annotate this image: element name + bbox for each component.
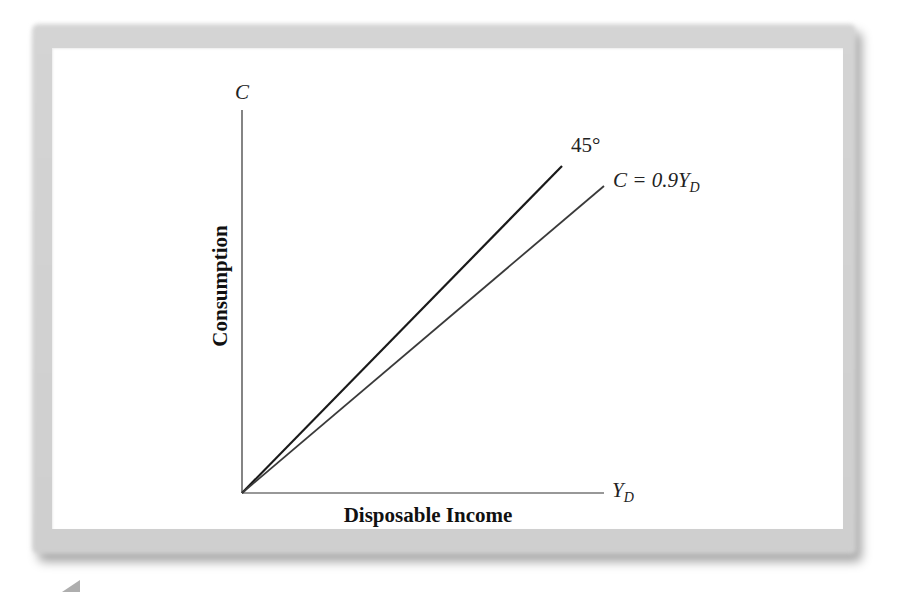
line-45-label: 45°: [571, 133, 600, 158]
consumption-line-label-subscript: D: [690, 180, 700, 195]
page-corner-mark: [62, 580, 80, 592]
consumption-line-label: C = 0.9YD: [613, 168, 700, 196]
x-axis-symbol-subscript: D: [624, 490, 634, 505]
consumption-line: [242, 186, 604, 493]
x-axis-symbol-text: Y: [612, 478, 624, 502]
y-axis-label: Consumption: [208, 225, 233, 346]
y-axis-symbol: C: [235, 80, 249, 105]
x-axis-symbol: YD: [612, 478, 634, 506]
consumption-line-label-text: C = 0.9Y: [613, 168, 690, 192]
line-45-degree: [242, 166, 562, 493]
x-axis-label: Disposable Income: [344, 503, 513, 528]
